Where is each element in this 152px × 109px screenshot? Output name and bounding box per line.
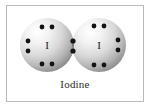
- figure-caption: Iodine: [6, 78, 144, 91]
- figure-container: I I Iodine: [0, 0, 152, 109]
